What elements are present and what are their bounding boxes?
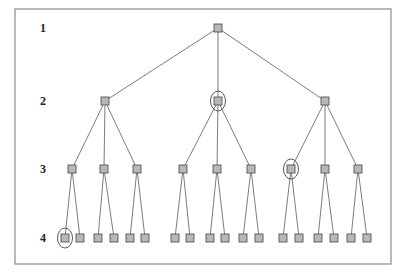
tree-edge [291, 101, 325, 169]
level-label: 4 [40, 231, 46, 245]
tree-edge [358, 169, 367, 238]
tree-edge [104, 169, 114, 238]
tree-node [321, 97, 329, 105]
tree-node [239, 234, 247, 242]
highlight-ellipses [58, 91, 299, 248]
tree-node [221, 234, 229, 242]
tree-edge [351, 169, 358, 238]
tree-node [179, 165, 187, 173]
tree-edge [105, 28, 218, 101]
tree-edge [183, 169, 190, 238]
tree-node [321, 165, 329, 173]
tree-edge [210, 169, 217, 238]
tree-node [206, 234, 214, 242]
tree-edge [130, 169, 137, 238]
tree-node [279, 234, 287, 242]
tree-node [255, 234, 263, 242]
tree-node [354, 165, 362, 173]
tree-node [247, 165, 255, 173]
tree-node [101, 97, 109, 105]
tree-edge [104, 101, 105, 169]
tree-node [214, 97, 222, 105]
level-labels: 1234 [40, 21, 46, 245]
tree-edge [325, 101, 358, 169]
tree-edges [65, 28, 367, 238]
tree-edge [325, 169, 334, 238]
tree-node [100, 165, 108, 173]
diagram-frame [15, 9, 391, 264]
tree-edge [175, 169, 183, 238]
tree-node [347, 234, 355, 242]
tree-node [330, 234, 338, 242]
tree-edge [72, 169, 80, 238]
tree-edge [217, 169, 225, 238]
tree-node [287, 165, 295, 173]
tree-node [213, 165, 221, 173]
tree-edge [105, 101, 137, 169]
tree-node [76, 234, 84, 242]
tree-edge [137, 169, 145, 238]
tree-edge [318, 169, 325, 238]
tree-node [214, 24, 222, 32]
tree-node [295, 234, 303, 242]
tree-edge [218, 101, 251, 169]
tree-node [186, 234, 194, 242]
tree-node [94, 234, 102, 242]
tree-node [363, 234, 371, 242]
tree-diagram: 1234 [0, 0, 402, 279]
tree-node [141, 234, 149, 242]
tree-edge [243, 169, 251, 238]
tree-edge [72, 101, 105, 169]
tree-nodes [61, 24, 371, 242]
level-label: 1 [40, 21, 46, 35]
tree-node [126, 234, 134, 242]
tree-edge [218, 28, 325, 101]
tree-edge [251, 169, 259, 238]
tree-node [110, 234, 118, 242]
tree-edge [283, 169, 291, 238]
tree-edge [183, 101, 218, 169]
tree-edge [291, 169, 299, 238]
tree-node [68, 165, 76, 173]
level-label: 3 [40, 162, 46, 176]
tree-node [61, 234, 69, 242]
tree-node [133, 165, 141, 173]
tree-edge [98, 169, 104, 238]
tree-node [314, 234, 322, 242]
level-label: 2 [40, 94, 46, 108]
tree-node [171, 234, 179, 242]
